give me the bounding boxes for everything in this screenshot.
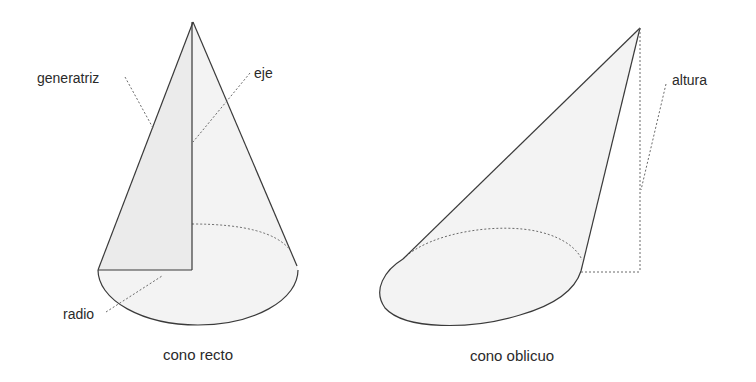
height-label: altura	[672, 73, 707, 87]
axis-label: eje	[254, 66, 273, 80]
generatrix-label: generatriz	[37, 71, 99, 85]
radius-label: radio	[63, 307, 94, 321]
cone-diagram: generatriz eje radio cono recto altura c…	[0, 0, 756, 382]
right-cone-caption: cono recto	[163, 347, 233, 362]
height-leader-line	[641, 84, 666, 190]
oblique-cone-caption: cono oblicuo	[470, 348, 554, 363]
oblique-cone	[380, 28, 666, 325]
generatrix-leader-line	[125, 77, 153, 128]
oblique-cone-body	[380, 28, 640, 325]
cone-drawings	[0, 0, 756, 382]
